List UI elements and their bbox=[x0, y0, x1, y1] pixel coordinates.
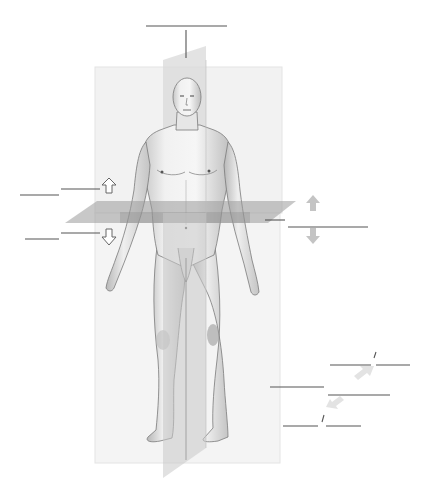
diagram-canvas bbox=[0, 0, 430, 497]
superior-arrow-filled-icon bbox=[306, 195, 320, 211]
tick-foot-1 bbox=[374, 352, 376, 358]
body-planes-diagram bbox=[0, 0, 430, 497]
proximal-arrow-light-icon bbox=[354, 366, 374, 380]
tick-foot-4 bbox=[322, 415, 324, 422]
distal-arrow-light-icon bbox=[326, 396, 344, 409]
inferior-arrow-filled-icon bbox=[306, 228, 320, 244]
